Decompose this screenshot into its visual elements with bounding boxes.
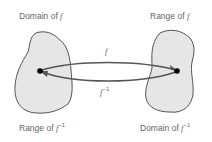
label-domain-finv: Domain of f−1 [140, 122, 190, 133]
range-blob [146, 30, 194, 112]
range-point [174, 68, 180, 74]
arrow-label-f: f [105, 46, 107, 56]
arrow-label-finv: f−1 [100, 86, 109, 97]
label-range-finv: Range of f−1 [19, 122, 65, 133]
label-domain-f: Domain of f [19, 11, 62, 21]
label-range-f: Range of f [150, 11, 189, 21]
domain-point [37, 68, 43, 74]
diagram-canvas [0, 0, 212, 142]
